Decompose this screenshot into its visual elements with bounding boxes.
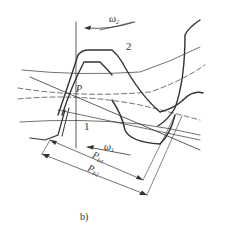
gear2-label: 2	[126, 41, 132, 52]
gear2-right-flank-tip	[183, 92, 203, 100]
omega2-subscript: 2	[116, 19, 119, 25]
gear-meshing-diagram	[0, 0, 230, 231]
omega1-label: ω1	[104, 142, 114, 153]
pitch-circle-1-dashed	[18, 97, 200, 120]
omega2-symbol: ω	[109, 13, 116, 24]
pb2-ext-left	[42, 140, 50, 154]
omega2-arrowhead	[84, 26, 91, 31]
pb1-arrow-left	[50, 140, 57, 145]
omega2-label: ω2	[109, 14, 119, 25]
pitch-point-label: P	[76, 84, 82, 94]
pb2-arrow-left	[42, 154, 50, 159]
line-of-action	[30, 77, 200, 150]
figure-caption: b)	[80, 212, 88, 222]
gear1-left-tooth	[30, 110, 65, 140]
pitch-circle-2-dashed	[18, 65, 205, 94]
gear2-circle	[22, 47, 200, 74]
omega1-symbol: ω	[104, 141, 111, 152]
pb1-arrow-right	[136, 175, 143, 180]
omega1-arrowhead	[86, 145, 94, 150]
gear1-label: 1	[84, 121, 90, 132]
gear1-tooth	[112, 100, 175, 144]
omega1-subscript: 1	[111, 147, 114, 153]
gear2-tooth-inner	[62, 62, 112, 115]
pb2-arrow-right	[139, 191, 147, 196]
